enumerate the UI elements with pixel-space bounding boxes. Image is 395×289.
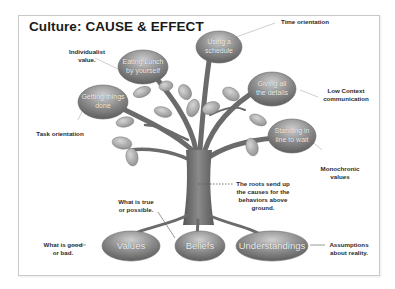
bubble-text-using-schedule: Using a schedule xyxy=(196,38,242,55)
root-text-understandings: Understandings xyxy=(236,240,308,251)
annotation-true-or-possible: What is true or possible. xyxy=(113,198,159,214)
bubble-text-getting-things-done: Getting things done xyxy=(78,93,128,110)
root-text-values: Values xyxy=(102,240,160,251)
annotation-low-context: Low Context communication xyxy=(318,87,374,103)
annotation-assumptions: Assumptions about reality. xyxy=(324,241,374,257)
trunk-note: The roots send up the causes for the beh… xyxy=(232,180,294,212)
annotation-good-or-bad: What is good or bad. xyxy=(40,241,86,257)
bubble-text-standing-in-line: Standing in line to wait xyxy=(268,127,316,144)
bubble-text-eating-lunch: Eating Lunch by yourself xyxy=(118,58,168,75)
root-text-beliefs: Beliefs xyxy=(175,240,225,251)
annotation-time-orientation: Time orientation xyxy=(275,18,335,26)
annotation-task-orientation: Task orientation xyxy=(30,130,90,138)
bubble-text-giving-details: Giving all the details xyxy=(248,80,296,97)
annotation-monochronic: Monochronic values xyxy=(315,165,365,181)
annotation-individualist: Individualist value. xyxy=(62,48,112,64)
